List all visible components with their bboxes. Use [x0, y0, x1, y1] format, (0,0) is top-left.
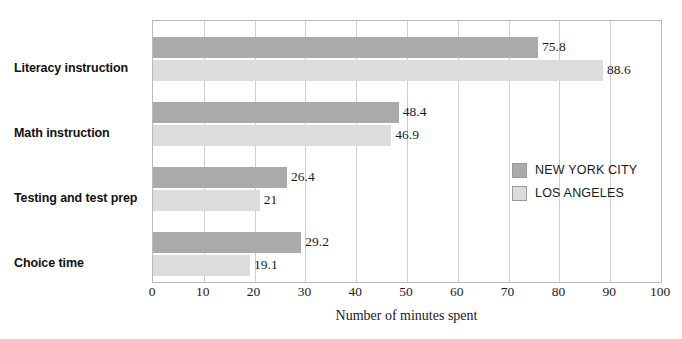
bar-value-label: 46.9 — [395, 124, 419, 145]
bar — [153, 232, 301, 253]
bar-chart: Literacy instruction Math instruction Te… — [0, 0, 682, 339]
category-label-text: Choice time — [14, 256, 84, 270]
x-axis-tick-label: 10 — [196, 284, 210, 300]
x-axis-tick-label: 100 — [650, 284, 670, 300]
bar — [153, 190, 260, 211]
category-label-text: Math instruction — [14, 126, 110, 140]
bar-value-label: 19.1 — [254, 254, 278, 275]
legend-item-los-angeles: LOS ANGELES — [512, 183, 652, 203]
bar — [153, 37, 538, 58]
category-label: Choice time — [0, 253, 146, 271]
category-label-text: Literacy instruction — [14, 61, 128, 75]
bar-value-label: 75.8 — [542, 36, 566, 57]
bar — [153, 102, 399, 123]
x-axis-tick-label: 60 — [450, 284, 464, 300]
category-label: Testing and test prep — [0, 188, 146, 206]
x-axis-ticks: 0102030405060708090100 — [152, 284, 661, 302]
category-label-text: Testing and test prep — [14, 191, 137, 205]
x-axis-tick-label: 90 — [602, 284, 616, 300]
x-axis-tick-label: 80 — [552, 284, 566, 300]
bar-value-label: 29.2 — [305, 231, 329, 252]
bar-value-label: 26.4 — [291, 166, 315, 187]
bar-value-label: 21 — [264, 189, 278, 210]
plot-area — [152, 20, 662, 283]
x-axis-tick-label: 50 — [399, 284, 413, 300]
bar-value-label: 48.4 — [403, 101, 427, 122]
legend: NEW YORK CITY LOS ANGELES — [512, 160, 652, 206]
x-axis-tick-label: 40 — [348, 284, 362, 300]
x-axis-tick-label: 20 — [247, 284, 261, 300]
legend-label: LOS ANGELES — [535, 186, 624, 200]
bar — [153, 125, 391, 146]
x-axis-tick-label: 30 — [298, 284, 312, 300]
bar — [153, 167, 287, 188]
x-axis-tick-label: 70 — [501, 284, 515, 300]
legend-item-new-york-city: NEW YORK CITY — [512, 160, 652, 180]
category-label: Math instruction — [0, 123, 146, 141]
x-axis-tick-label: 0 — [149, 284, 156, 300]
bar-value-label: 88.6 — [607, 59, 631, 80]
category-label: Literacy instruction — [0, 58, 146, 76]
x-axis-title: Number of minutes spent — [152, 308, 661, 324]
legend-swatch-icon — [512, 163, 527, 178]
category-label-column: Literacy instruction Math instruction Te… — [0, 20, 146, 281]
bar — [153, 255, 250, 276]
legend-swatch-icon — [512, 186, 527, 201]
bar — [153, 60, 603, 81]
legend-label: NEW YORK CITY — [535, 163, 637, 177]
